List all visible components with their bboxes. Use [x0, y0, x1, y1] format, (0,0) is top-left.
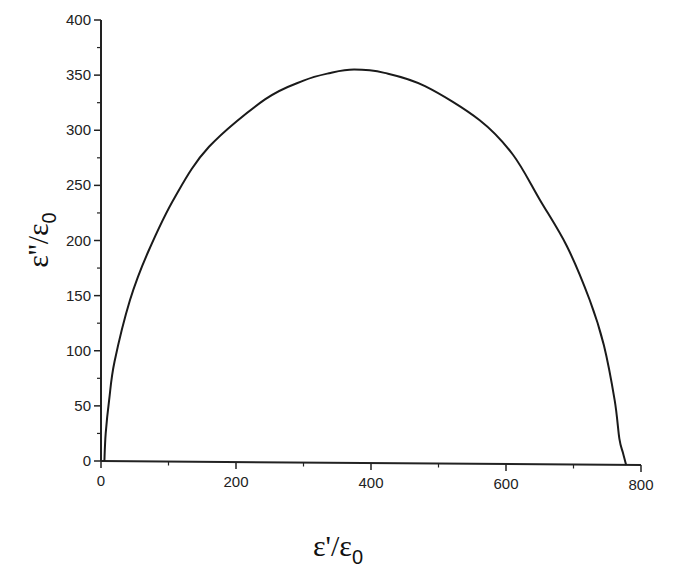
y-tick-label: 150 — [66, 287, 91, 304]
y-tick-label: 250 — [66, 176, 91, 193]
x-tick-label: 800 — [628, 476, 653, 493]
cole-cole-chart: 0501001502002503003504000200400600800 ε'… — [0, 0, 673, 574]
x-tick-label: 0 — [97, 472, 105, 489]
y-tick-label: 400 — [66, 11, 91, 28]
x-tick-label: 600 — [493, 475, 518, 492]
x-axis-title: ε'/ε0 — [313, 529, 363, 568]
ticks: 0501001502002503003504000200400600800 — [66, 11, 654, 493]
x-tick-label: 400 — [358, 474, 383, 491]
y-tick-label: 350 — [66, 66, 91, 83]
y-tick-label: 0 — [83, 452, 91, 469]
y-tick-label: 100 — [66, 342, 91, 359]
axes — [101, 20, 641, 465]
y-tick-label: 50 — [74, 397, 91, 414]
y-tick-label: 300 — [66, 121, 91, 138]
data-curve — [104, 70, 626, 465]
y-axis-title: ε''/ε0 — [21, 212, 60, 267]
x-tick-label: 200 — [223, 473, 248, 490]
y-tick-label: 200 — [66, 232, 91, 249]
